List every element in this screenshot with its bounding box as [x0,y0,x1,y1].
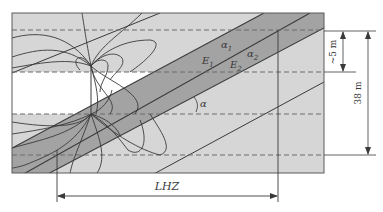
dim-small-label: ~5 m [328,39,338,64]
lhz-label: LHZ [154,180,180,193]
dim-large-label: 38 m [353,81,363,104]
angle-label: α [200,98,207,109]
cross-section-diagram: LHZ ~5 m 38 m α1 E1 E2 α2 α [0,0,383,212]
